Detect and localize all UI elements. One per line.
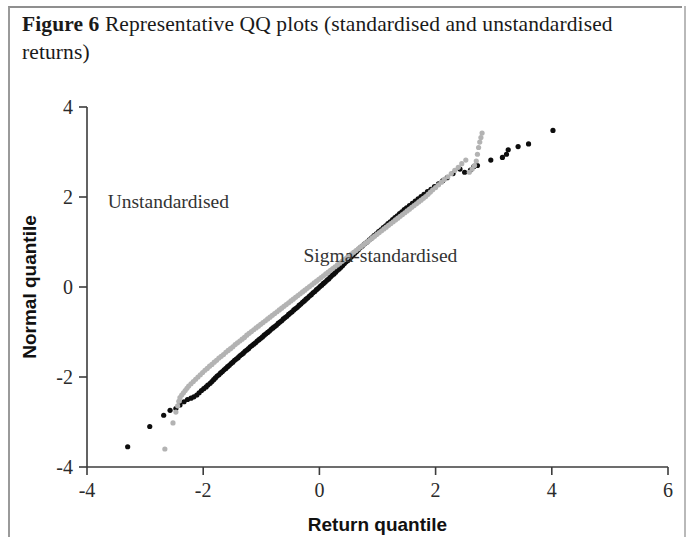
data-point [161, 413, 166, 418]
x-axis-tick-label: -2 [195, 479, 212, 501]
y-axis-tick-label: 4 [63, 96, 73, 118]
data-point [550, 128, 555, 133]
qq-plot: -4-20246-4-2024 UnstandardisedSigma-stan… [0, 0, 687, 541]
data-point [477, 140, 482, 145]
x-axis-tick-label: 0 [314, 479, 324, 501]
data-point [459, 161, 464, 166]
y-axis-tick-label: -2 [56, 366, 73, 388]
series-sigma-standardised [162, 131, 484, 452]
data-point [526, 141, 531, 146]
x-axis-tick-label: 4 [547, 479, 557, 501]
axes: -4-20246-4-2024 [56, 96, 673, 501]
figure-container: Figure 6 Representative QQ plots (standa… [0, 0, 687, 541]
data-point [476, 145, 481, 150]
data-point [516, 144, 521, 149]
x-axis-tick-label: 2 [431, 479, 441, 501]
qq-plot-svg: -4-20246-4-2024 UnstandardisedSigma-stan… [0, 0, 687, 541]
data-point [488, 158, 493, 163]
sigma-standardised-label: Sigma-standardised [303, 245, 457, 266]
data-point [475, 152, 480, 157]
x-axis-tick-label: 6 [663, 479, 673, 501]
y-axis-title: Normal quantile [19, 215, 40, 359]
data-point [463, 158, 468, 163]
data-point [175, 403, 180, 408]
data-point [506, 147, 511, 152]
data-point [167, 408, 172, 413]
data-point [472, 163, 477, 168]
y-axis-tick-label: 0 [63, 276, 73, 298]
data-point [125, 444, 130, 449]
x-axis-title: Return quantile [308, 514, 447, 535]
series-unstandardised [125, 128, 555, 450]
y-axis-tick-label: -4 [56, 456, 73, 478]
unstandardised-label: Unstandardised [108, 191, 230, 212]
data-point [162, 446, 167, 451]
series-annotations: UnstandardisedSigma-standardised [108, 191, 458, 266]
data-point [170, 420, 175, 425]
data-point [478, 135, 483, 140]
data-point [147, 424, 152, 429]
data-point [479, 131, 484, 136]
data-point [504, 152, 509, 157]
data-point [500, 155, 505, 160]
data-series [125, 128, 555, 452]
data-point [474, 158, 479, 163]
data-point [462, 170, 467, 175]
y-axis-tick-label: 2 [63, 186, 73, 208]
x-axis-tick-label: -4 [79, 479, 96, 501]
data-point [173, 410, 178, 415]
